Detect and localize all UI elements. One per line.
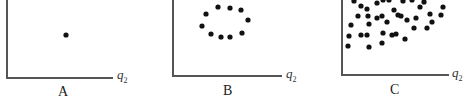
data-point <box>379 40 384 45</box>
data-point <box>429 19 434 24</box>
data-point <box>413 15 418 20</box>
data-point <box>218 34 223 39</box>
data-point <box>411 25 416 30</box>
data-point <box>364 6 369 11</box>
data-point <box>348 22 353 27</box>
data-point <box>393 31 398 36</box>
data-point <box>398 13 403 18</box>
data-point <box>386 0 391 3</box>
data-point <box>427 11 432 16</box>
data-point <box>199 23 204 28</box>
data-point <box>63 32 68 37</box>
data-point <box>345 43 350 48</box>
data-point <box>438 12 443 17</box>
data-point <box>424 25 429 30</box>
data-point <box>227 5 232 10</box>
data-point <box>203 11 208 16</box>
data-point <box>239 30 244 35</box>
data-point <box>400 0 405 4</box>
data-point <box>404 17 409 22</box>
data-point <box>358 32 363 37</box>
data-point <box>409 0 414 3</box>
data-point <box>365 13 370 18</box>
data-point <box>374 0 379 5</box>
data-point <box>245 17 250 22</box>
data-point <box>358 3 363 8</box>
data-point <box>402 36 407 41</box>
data-point <box>215 4 220 9</box>
data-point <box>380 30 385 35</box>
data-point <box>421 0 426 5</box>
data-point <box>208 31 213 36</box>
data-point <box>346 33 351 38</box>
data-point <box>374 15 379 20</box>
data-point <box>391 7 396 12</box>
data-point <box>355 13 360 18</box>
data-point <box>384 19 389 24</box>
data-point <box>380 0 385 3</box>
data-point <box>417 4 422 9</box>
data-point <box>227 34 232 39</box>
data-point <box>379 13 384 18</box>
scatter-points <box>0 0 465 100</box>
data-point <box>366 44 371 49</box>
data-point <box>364 32 369 37</box>
data-point <box>366 21 371 26</box>
data-point <box>238 7 243 12</box>
data-point <box>351 0 356 4</box>
data-point <box>440 4 445 9</box>
